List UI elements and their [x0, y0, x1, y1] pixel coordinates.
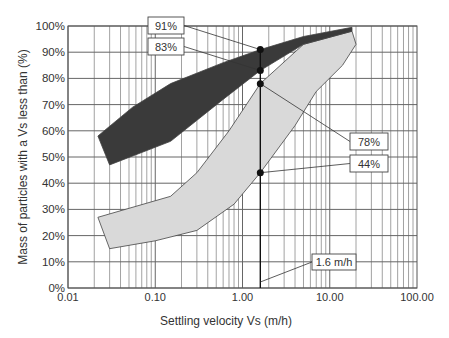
annotation-label: 1.6 m/h [316, 256, 353, 268]
annotation-label: 44% [358, 158, 380, 170]
annotation-label: 91% [155, 20, 177, 32]
y-axis-title: Mass of particles with a Vs less than (%… [16, 49, 30, 264]
y-tick-label: 60% [42, 125, 65, 137]
annotation-label: 83% [155, 41, 177, 53]
y-tick-labels: 0%10%20%30%40%50%60%70%80%90%100% [36, 20, 65, 294]
y-tick-label: 30% [42, 203, 65, 215]
y-tick-label: 20% [42, 230, 65, 242]
annotation-label: 78% [358, 136, 380, 148]
y-tick-label: 70% [42, 99, 65, 111]
data-point-marker [257, 67, 264, 74]
x-tick-label: 0.01 [57, 291, 78, 303]
x-tick-label: 10.00 [316, 291, 344, 303]
leader-line [260, 262, 312, 282]
y-tick-label: 40% [42, 177, 65, 189]
x-tick-label: 100.00 [400, 291, 434, 303]
y-tick-label: 50% [42, 151, 65, 163]
y-tick-label: 100% [36, 20, 65, 32]
data-bands [98, 27, 356, 248]
data-point-marker [257, 169, 264, 176]
leader-line [260, 164, 350, 173]
y-tick-label: 90% [42, 46, 65, 58]
x-tick-label: 1.00 [232, 291, 253, 303]
leader-line [184, 26, 260, 50]
y-tick-label: 80% [42, 72, 65, 84]
x-tick-label: 0.10 [145, 291, 166, 303]
x-tick-labels: 0.010.101.0010.00100.00 [57, 291, 434, 303]
data-point-marker [257, 80, 264, 87]
settling-velocity-chart: 0%10%20%30%40%50%60%70%80%90%100% 0.010.… [0, 0, 449, 338]
x-axis-title: Settling velocity Vs (m/h) [160, 314, 292, 328]
y-tick-label: 10% [42, 256, 65, 268]
data-point-marker [257, 46, 264, 53]
